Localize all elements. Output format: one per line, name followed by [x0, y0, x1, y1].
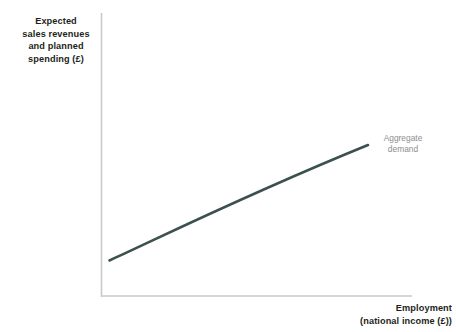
- x-axis-title: Employment (national income (£)): [286, 302, 452, 327]
- aggregate-demand-line: [110, 145, 369, 261]
- aggregate-demand-annotation: Aggregate demand: [372, 133, 434, 155]
- y-axis-title: Expected sales revenues and planned spen…: [14, 15, 98, 65]
- aggregate-demand-chart: Expected sales revenues and planned spen…: [0, 0, 456, 332]
